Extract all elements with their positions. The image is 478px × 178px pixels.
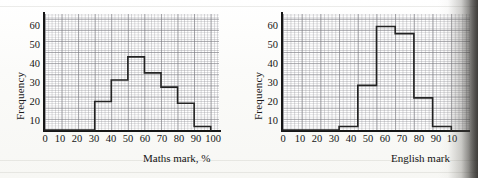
maths-x-tick-90: 90	[188, 133, 204, 144]
english-x-tick-30: 30	[326, 133, 342, 144]
english-x-tick-50: 50	[360, 133, 376, 144]
english-x-tick-100-truncated: 10	[444, 133, 460, 144]
maths-x-tick-70: 70	[154, 133, 170, 144]
maths-histogram: Frequency 10 20 30 40 50 60 0 10 20 30 4…	[0, 0, 240, 178]
english-x-tick-0: 0	[275, 133, 291, 144]
maths-x-tick-100: 100	[203, 133, 223, 144]
maths-x-tick-0: 0	[37, 133, 53, 144]
maths-x-tick-50: 50	[120, 133, 136, 144]
english-x-axis-label: English mark	[391, 152, 450, 164]
maths-x-axis-label: Maths mark, %	[143, 152, 211, 164]
english-x-tick-60: 60	[377, 133, 393, 144]
english-histogram: Frequency 10 20 30 40 50 60 0 10 20 30 4…	[238, 0, 478, 178]
english-x-tick-70: 70	[394, 133, 410, 144]
maths-x-tick-60: 60	[137, 133, 153, 144]
maths-x-tick-10: 10	[52, 133, 68, 144]
maths-x-tick-20: 20	[69, 133, 85, 144]
english-x-tick-80: 80	[411, 133, 427, 144]
maths-x-tick-40: 40	[103, 133, 119, 144]
maths-x-tick-80: 80	[171, 133, 187, 144]
english-x-tick-40: 40	[343, 133, 359, 144]
maths-histogram-outline	[45, 57, 211, 130]
english-x-tick-10: 10	[292, 133, 308, 144]
english-x-tick-90: 90	[428, 133, 444, 144]
maths-x-tick-30: 30	[86, 133, 102, 144]
english-histogram-outline	[283, 26, 451, 130]
english-x-tick-20: 20	[309, 133, 325, 144]
